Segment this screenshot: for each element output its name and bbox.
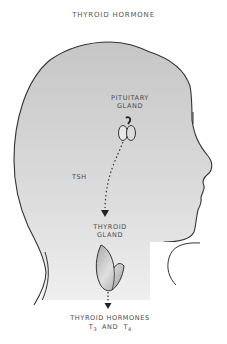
tsh-label: TSH xyxy=(72,173,102,181)
thyroid-gland-label: THYROID GLAND xyxy=(75,223,145,239)
t3-and-t4-label: T3 AND T4 xyxy=(40,323,180,333)
pituitary-gland-label: PITUITARY GLAND xyxy=(95,94,165,110)
head-profile-illustration xyxy=(0,0,227,344)
thyroid-hormones-label: THYROID HORMONES T3 AND T4 xyxy=(40,314,180,333)
